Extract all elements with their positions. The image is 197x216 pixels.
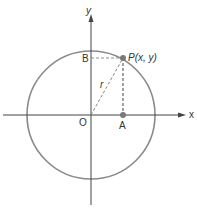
radius-label: r xyxy=(100,79,104,90)
point-b-label: B xyxy=(82,53,89,64)
x-axis-arrow-icon xyxy=(178,113,186,118)
y-axis-label: y xyxy=(85,5,92,16)
origin-label: O xyxy=(79,117,87,128)
point-a xyxy=(120,112,126,118)
radius-line xyxy=(91,58,123,115)
point-a-label: A xyxy=(119,120,126,131)
x-axis-label: x xyxy=(189,109,194,120)
unit-circle-diagram: y x O A B P(x, y) r xyxy=(0,0,197,216)
point-p xyxy=(120,55,126,61)
point-p-label: P(x, y) xyxy=(128,52,157,63)
